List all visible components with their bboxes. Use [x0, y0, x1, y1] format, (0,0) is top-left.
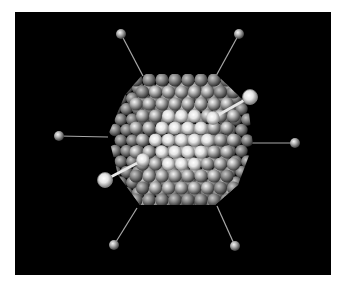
anchor-atom	[136, 153, 150, 167]
atom-sphere	[201, 85, 214, 98]
atom-sphere	[181, 145, 194, 158]
atom-sphere	[188, 181, 201, 194]
atom-sphere	[129, 169, 142, 182]
atom-sphere	[129, 193, 142, 206]
atom-sphere	[201, 157, 214, 170]
ligand-atom-top-left	[116, 29, 126, 39]
front-atom-layer	[129, 73, 240, 206]
atom-sphere	[207, 193, 220, 206]
atom-sphere	[220, 121, 233, 134]
atom-sphere	[109, 187, 121, 199]
atom-sphere	[175, 181, 188, 194]
atom-sphere	[115, 197, 127, 209]
bond-left	[59, 136, 108, 137]
atom-sphere	[115, 176, 127, 188]
atom-sphere	[155, 169, 168, 182]
atom-sphere	[194, 73, 207, 86]
atom-sphere	[136, 85, 149, 98]
atom-sphere	[142, 97, 155, 110]
atom-sphere	[181, 73, 194, 86]
atom-sphere	[136, 181, 149, 194]
atom-sphere	[168, 97, 181, 110]
bond-top-left	[121, 34, 143, 76]
bond-bottom-left	[114, 208, 137, 245]
atom-sphere	[149, 85, 162, 98]
atom-sphere	[241, 113, 253, 125]
atom-sphere	[227, 109, 240, 122]
anchor-atom	[206, 111, 220, 125]
atom-sphere	[188, 157, 201, 170]
atom-sphere	[149, 181, 162, 194]
atom-sphere	[155, 193, 168, 206]
atom-sphere	[220, 193, 233, 206]
atom-sphere	[227, 85, 240, 98]
atom-sphere	[175, 109, 188, 122]
atom-sphere	[168, 121, 181, 134]
atom-sphere	[149, 157, 162, 170]
atom-sphere	[214, 85, 227, 98]
atom-sphere	[181, 97, 194, 110]
atom-sphere	[129, 97, 142, 110]
atom-sphere	[235, 187, 247, 199]
atom-sphere	[181, 169, 194, 182]
atom-sphere	[162, 85, 175, 98]
atom-sphere	[175, 157, 188, 170]
atom-sphere	[241, 176, 253, 188]
atom-sphere	[241, 134, 253, 146]
atom-sphere	[188, 85, 201, 98]
atom-sphere	[230, 197, 242, 209]
ligand-atom-left	[54, 131, 64, 141]
atom-sphere	[227, 181, 240, 194]
ligand-atom-upper-right-large	[243, 90, 258, 105]
atom-sphere	[162, 157, 175, 170]
nanoparticle-render	[15, 12, 331, 275]
atom-sphere	[129, 73, 142, 86]
atom-sphere	[175, 85, 188, 98]
ligand-atom-bottom-right	[230, 241, 240, 251]
atom-sphere	[220, 145, 233, 158]
ligand-atom-right	[290, 138, 300, 148]
atom-sphere	[214, 181, 227, 194]
atom-sphere	[120, 82, 132, 94]
atom-sphere	[201, 181, 214, 194]
atom-sphere	[235, 145, 247, 157]
atom-sphere	[194, 145, 207, 158]
atom-sphere	[162, 109, 175, 122]
atom-sphere	[207, 145, 220, 158]
atom-sphere	[207, 97, 220, 110]
bond-top-right	[216, 34, 239, 76]
atom-sphere	[155, 97, 168, 110]
atom-sphere	[227, 133, 240, 146]
atom-sphere	[155, 145, 168, 158]
atom-sphere	[115, 155, 127, 167]
atom-sphere	[142, 121, 155, 134]
atom-sphere	[109, 82, 121, 94]
ligand-atom-top-right	[234, 29, 244, 39]
atom-sphere	[220, 73, 233, 86]
atom-sphere	[120, 187, 132, 199]
atom-sphere	[109, 145, 121, 157]
atom-sphere	[149, 109, 162, 122]
atom-sphere	[162, 133, 175, 146]
atom-sphere	[155, 121, 168, 134]
atom-sphere	[142, 169, 155, 182]
atom-sphere	[181, 121, 194, 134]
atom-sphere	[194, 193, 207, 206]
atom-sphere	[168, 193, 181, 206]
atom-sphere	[175, 133, 188, 146]
atom-sphere	[129, 121, 142, 134]
atom-sphere	[201, 133, 214, 146]
ligand-atom-bottom-left	[109, 240, 119, 250]
atom-sphere	[181, 193, 194, 206]
atom-sphere	[115, 134, 127, 146]
atom-sphere	[188, 109, 201, 122]
atom-sphere	[168, 169, 181, 182]
atom-sphere	[136, 133, 149, 146]
atom-sphere	[168, 145, 181, 158]
atom-sphere	[162, 181, 175, 194]
atom-sphere	[214, 133, 227, 146]
atom-sphere	[109, 124, 121, 136]
metal-core-cluster	[109, 73, 254, 209]
atom-sphere	[241, 155, 253, 167]
atom-sphere	[115, 113, 127, 125]
